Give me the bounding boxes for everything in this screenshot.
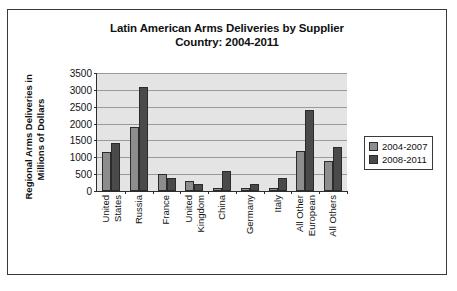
- chart-title-line-1: Latin American Arms Deliveries by Suppli…: [110, 22, 344, 34]
- bar-group: [291, 73, 319, 191]
- bar: [102, 152, 111, 191]
- legend-item: 2008-2011: [369, 153, 427, 166]
- y-axis-tick-label: 2000: [70, 118, 92, 129]
- y-axis-tick-label: 2500: [70, 101, 92, 112]
- y-axis-tick-label: 1500: [70, 135, 92, 146]
- x-axis-tick-label-line: All Others: [327, 195, 338, 237]
- x-axis-tick: [291, 191, 292, 194]
- x-axis-tick: [236, 191, 237, 194]
- bar: [278, 178, 287, 191]
- legend-swatch-icon: [369, 142, 378, 151]
- bar-group: [264, 73, 292, 191]
- bar: [111, 143, 120, 191]
- bars-layer: [97, 73, 347, 191]
- chart-legend: 2004-20072008-2011: [364, 136, 433, 170]
- bar: [324, 161, 333, 191]
- y-axis-tick-label: 0: [86, 186, 92, 197]
- x-axis-tick-label: China: [216, 195, 228, 273]
- bar: [158, 174, 167, 191]
- y-axis-tick-label: 3500: [70, 68, 92, 79]
- chart-title: Latin American Arms Deliveries by Suppli…: [8, 21, 446, 49]
- x-axis-tick-label: UnitedStates: [100, 195, 112, 273]
- x-axis-tick-label-line: Kingdom: [195, 195, 206, 273]
- legend-item-label: 2008-2011: [382, 154, 427, 165]
- x-axis-tick-label: UnitedKingdom: [183, 195, 195, 273]
- x-axis-tick-label-line: Germany: [244, 195, 255, 234]
- bar-group: [125, 73, 153, 191]
- x-axis-tick-label-line: France: [160, 195, 171, 225]
- legend-item-label: 2004-2007: [382, 141, 427, 152]
- bar: [185, 181, 194, 191]
- bar-group: [319, 73, 347, 191]
- x-axis-tick: [180, 191, 181, 194]
- legend-swatch-icon: [369, 155, 378, 164]
- bar: [222, 171, 231, 191]
- x-axis-tick-label: Russia: [133, 195, 145, 273]
- x-axis-tick-label: France: [160, 195, 172, 273]
- x-axis-tick-label-line: States: [111, 195, 122, 273]
- bar: [305, 110, 314, 191]
- bar: [130, 127, 139, 191]
- bar: [194, 184, 203, 191]
- bar: [296, 151, 305, 191]
- x-axis-tick: [153, 191, 154, 194]
- y-axis-tick-label: 1000: [70, 152, 92, 163]
- x-axis-tick-label-line: Russia: [133, 195, 144, 224]
- bar: [333, 147, 342, 191]
- y-axis-tick-label: 3000: [70, 84, 92, 95]
- x-axis-tick-label-line: Italy: [272, 195, 283, 212]
- bar-group: [236, 73, 264, 191]
- x-axis-tick-labels: UnitedStatesRussiaFranceUnitedKingdomChi…: [96, 195, 346, 275]
- bar: [269, 188, 278, 191]
- chart-title-line-2: Country: 2004-2011: [8, 35, 446, 49]
- x-axis-tick-label: All OtherEuropean: [294, 195, 306, 273]
- x-axis-tick: [319, 191, 320, 194]
- y-axis-title: Regional Arms Deliveries in Millions of …: [23, 80, 46, 200]
- bar-group: [97, 73, 125, 191]
- bar: [167, 178, 176, 191]
- chart-figure-frame: Latin American Arms Deliveries by Suppli…: [7, 9, 447, 275]
- bar-group: [180, 73, 208, 191]
- x-axis-tick: [347, 191, 348, 194]
- x-axis-tick-label-line: United: [100, 195, 111, 222]
- x-axis-tick-label: All Others: [327, 195, 339, 273]
- plot-area: 3500300025002000150010005000: [96, 73, 347, 192]
- bar: [250, 184, 259, 191]
- x-axis-tick: [125, 191, 126, 194]
- y-axis-tick-label: 500: [75, 169, 92, 180]
- bar-group: [153, 73, 181, 191]
- x-axis-tick-label: Germany: [244, 195, 256, 273]
- x-axis-tick: [264, 191, 265, 194]
- x-axis-tick-label-line: United: [183, 195, 194, 222]
- y-axis-title-line-2: Millions of Dollars: [34, 80, 46, 200]
- bar: [139, 87, 148, 192]
- bar: [213, 188, 222, 191]
- x-axis-tick-label-line: China: [216, 195, 227, 220]
- x-axis-tick-label-line: All Other: [294, 195, 305, 232]
- y-axis-tick: [94, 191, 97, 192]
- x-axis-tick: [208, 191, 209, 194]
- bar-group: [208, 73, 236, 191]
- legend-item: 2004-2007: [369, 140, 427, 153]
- bar: [241, 188, 250, 191]
- x-axis-tick-label: Italy: [272, 195, 284, 273]
- x-axis-tick-label-line: European: [306, 195, 317, 273]
- y-axis-title-line-1: Regional Arms Deliveries in: [23, 80, 35, 200]
